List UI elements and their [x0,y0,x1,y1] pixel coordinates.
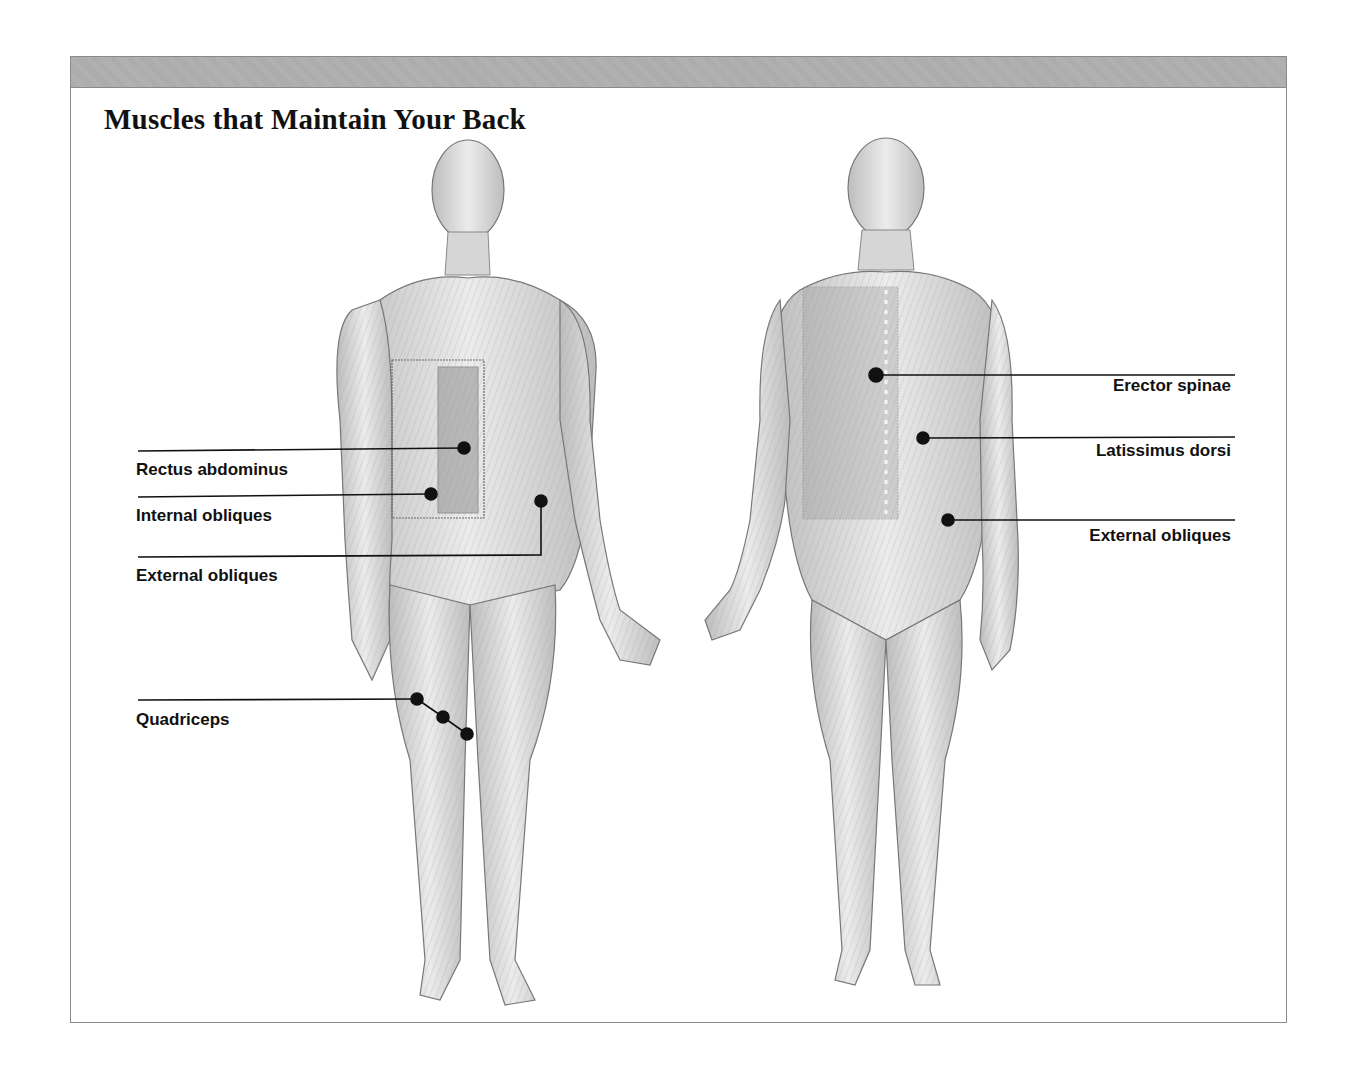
label-internal-obliques: Internal obliques [136,506,272,526]
label-external-obliques-front: External obliques [136,566,278,586]
label-erector-spinae: Erector spinae [1113,376,1231,396]
label-external-obliques-back: External obliques [1089,526,1231,546]
label-rectus-abdominus: Rectus abdominus [136,460,288,480]
front-figure [337,140,660,1005]
label-latissimus-dorsi: Latissimus dorsi [1096,441,1231,461]
back-figure [705,138,1018,985]
label-quadriceps: Quadriceps [136,710,230,730]
